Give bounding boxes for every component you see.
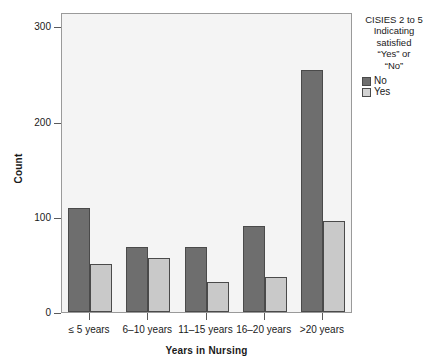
- y-tick-label: 200: [34, 118, 51, 128]
- y-axis-title: Count: [13, 139, 24, 199]
- bar-chart-figure: 3002001000 Count ≤ 5 years6–10 years11–1…: [0, 0, 430, 364]
- x-tick-label: 16–20 years: [236, 324, 291, 335]
- bar-yes-1: [148, 258, 170, 312]
- x-tick-mark: [322, 313, 323, 320]
- x-tick-label: 6–10 years: [123, 324, 172, 335]
- legend-title: CISIES 2 to 5 Indicating satisfied “Yes”…: [358, 14, 430, 71]
- bar-no-0: [68, 208, 90, 312]
- legend-item-label: Yes: [374, 87, 390, 97]
- bars-layer: [62, 14, 351, 312]
- bar-yes-3: [265, 277, 287, 312]
- legend-item-no: No: [362, 76, 430, 86]
- legend-items: NoYes: [358, 76, 430, 97]
- y-tick-mark: [54, 27, 61, 28]
- bar-no-2: [185, 247, 207, 312]
- legend-swatch-icon: [362, 77, 371, 86]
- y-tick-label: 100: [34, 213, 51, 223]
- y-axis: 3002001000 Count: [0, 0, 61, 364]
- bar-yes-0: [90, 264, 112, 312]
- y-tick-mark: [54, 123, 61, 124]
- legend-item-yes: Yes: [362, 87, 430, 97]
- x-tick-mark: [264, 313, 265, 320]
- legend: CISIES 2 to 5 Indicating satisfied “Yes”…: [358, 14, 430, 98]
- y-tick-label: 300: [34, 22, 51, 32]
- x-tick-mark: [89, 313, 90, 320]
- x-tick-label: >20 years: [300, 324, 344, 335]
- y-tick-mark: [54, 313, 61, 314]
- y-tick-label: 0: [45, 308, 51, 318]
- x-tick-mark: [206, 313, 207, 320]
- bar-yes-2: [207, 282, 229, 312]
- bar-no-1: [126, 247, 148, 312]
- bar-yes-4: [323, 221, 345, 312]
- x-tick-label: ≤ 5 years: [69, 324, 110, 335]
- x-axis: ≤ 5 years6–10 years11–15 years16–20 year…: [61, 313, 352, 364]
- bar-no-4: [301, 70, 323, 312]
- x-tick-mark: [147, 313, 148, 320]
- legend-item-label: No: [374, 76, 387, 86]
- x-tick-label: 11–15 years: [178, 324, 232, 335]
- bar-no-3: [243, 226, 265, 312]
- plot-area: [61, 13, 352, 313]
- x-axis-title: Years in Nursing: [61, 345, 352, 356]
- legend-swatch-icon: [362, 88, 371, 97]
- y-tick-mark: [54, 218, 61, 219]
